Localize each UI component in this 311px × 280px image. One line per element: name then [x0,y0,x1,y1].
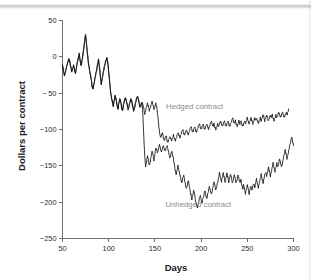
x-tick-label: 200 [195,244,207,253]
x-axis-label: Days [165,262,188,273]
annotation-hedged-contract: Hedged contract [166,102,224,111]
line-chart: 500− 50−100−150−200−250 5010015020025030… [0,0,311,280]
x-tick-label: 250 [241,244,253,253]
y-tick-label: −100 [40,125,57,134]
y-tick-label: −250 [40,234,57,243]
x-tick-label: 150 [149,244,161,253]
y-tick-label: −200 [40,198,57,207]
y-tick-label: 0 [52,52,56,61]
y-tick-label: −150 [40,161,57,170]
y-tick-label: 50 [48,16,56,25]
x-tick-label: 50 [58,244,66,253]
chart-figure: 500− 50−100−150−200−250 5010015020025030… [0,0,311,280]
y-tick-label: − 50 [42,89,56,98]
x-tick-label: 100 [103,244,115,253]
x-tick-label: 300 [287,244,299,253]
y-axis-label: Dollars per contract [16,80,27,171]
annotation-unhedged-contract: Unhedged contract [165,200,232,209]
